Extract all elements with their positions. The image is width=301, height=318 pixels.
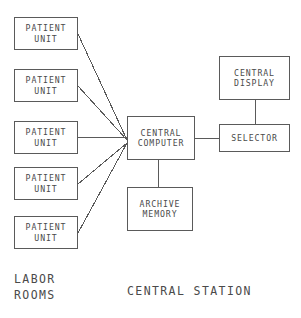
- node-central-computer[interactable]: CENTRALCOMPUTER: [127, 116, 195, 160]
- node-label-primary: CENTRAL: [141, 128, 182, 139]
- node-label-secondary: UNIT: [34, 138, 57, 149]
- node-label-secondary: UNIT: [34, 34, 57, 45]
- node-archive-memory[interactable]: ARCHIVEMEMORY: [127, 187, 193, 231]
- node-patient-unit-2[interactable]: PATIENTUNIT: [14, 69, 78, 102]
- node-central-display[interactable]: CENTRALDISPLAY: [219, 56, 290, 100]
- node-label-primary: PATIENT: [26, 222, 67, 233]
- node-label-primary: CENTRAL: [234, 68, 275, 79]
- node-label-primary: PATIENT: [26, 127, 67, 138]
- node-label-primary: PATIENT: [26, 173, 67, 184]
- central-station-label: CENTRAL STATION: [127, 284, 252, 300]
- node-patient-unit-3[interactable]: PATIENTUNIT: [14, 121, 78, 154]
- node-label-secondary: UNIT: [34, 184, 57, 195]
- node-label-primary: PATIENT: [26, 23, 67, 34]
- node-label-secondary: COMPUTER: [138, 138, 185, 149]
- node-selector[interactable]: SELECTOR: [219, 124, 290, 152]
- node-label-secondary: DISPLAY: [234, 78, 275, 89]
- wire-patient-2-to-computer: [78, 86, 127, 140]
- block-diagram: PATIENTUNITPATIENTUNITPATIENTUNITPATIENT…: [0, 0, 301, 318]
- node-patient-unit-4[interactable]: PATIENTUNIT: [14, 167, 78, 200]
- node-label-primary: SELECTOR: [231, 133, 278, 144]
- node-label-secondary: MEMORY: [143, 209, 178, 220]
- node-patient-unit-5[interactable]: PATIENTUNIT: [14, 216, 78, 249]
- wire-patient-5-to-computer: [78, 143, 127, 233]
- node-patient-unit-1[interactable]: PATIENTUNIT: [14, 17, 78, 50]
- node-label-secondary: UNIT: [34, 86, 57, 97]
- wire-patient-1-to-computer: [78, 34, 127, 140]
- node-label-primary: ARCHIVE: [140, 199, 181, 210]
- node-label-secondary: UNIT: [34, 233, 57, 244]
- wire-patient-4-to-computer: [78, 143, 127, 184]
- labor-rooms-label: LABOR ROOMS: [14, 272, 56, 303]
- node-label-primary: PATIENT: [26, 75, 67, 86]
